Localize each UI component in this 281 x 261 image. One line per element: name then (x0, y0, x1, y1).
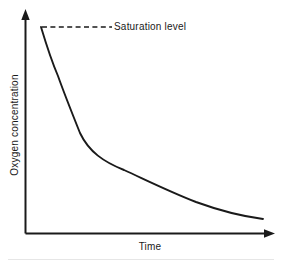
y-axis-arrowhead (21, 9, 29, 20)
oxygen-concentration-chart: Oxygen concentration Time Saturation lev… (0, 0, 281, 261)
saturation-level-label: Saturation level (114, 21, 186, 32)
x-axis-arrowhead (264, 229, 275, 237)
chart-plot-area (0, 0, 281, 261)
x-axis-label: Time (112, 241, 188, 252)
oxygen-decay-curve (41, 27, 263, 219)
page-bottom-rule (8, 259, 274, 260)
y-axis-label: Oxygen concentration (8, 40, 22, 210)
